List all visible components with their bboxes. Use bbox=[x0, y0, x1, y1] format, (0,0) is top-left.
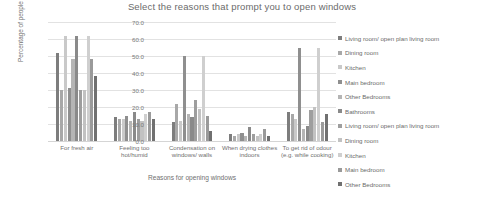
bar bbox=[298, 48, 301, 142]
bar bbox=[313, 107, 316, 141]
bar bbox=[90, 59, 93, 141]
bar bbox=[233, 136, 236, 141]
bar bbox=[259, 134, 262, 141]
legend-item[interactable]: Other Bedrooms bbox=[338, 89, 484, 104]
bar-group bbox=[278, 22, 336, 141]
legend-swatch-icon bbox=[338, 138, 342, 142]
y-axis-tick-label: 30.0 bbox=[104, 87, 144, 94]
bar bbox=[229, 134, 232, 141]
legend-swatch-icon bbox=[338, 168, 342, 172]
bar bbox=[175, 104, 178, 141]
bar bbox=[190, 117, 193, 141]
plot-area bbox=[48, 22, 336, 141]
bar bbox=[309, 110, 312, 141]
bar bbox=[267, 136, 270, 141]
legend-swatch-icon bbox=[338, 124, 342, 128]
legend-item[interactable]: Main bedroom bbox=[338, 162, 484, 177]
bar bbox=[75, 36, 78, 141]
bar bbox=[202, 56, 205, 141]
x-axis-tick-label: For fresh air bbox=[48, 144, 106, 159]
legend-label: Other Bedrooms bbox=[345, 181, 390, 188]
legend-swatch-icon bbox=[338, 51, 342, 55]
y-axis-title: Percentage of people bbox=[17, 0, 24, 84]
bar bbox=[244, 136, 247, 141]
y-axis-tick-label: 10.0 bbox=[104, 121, 144, 128]
x-axis-tick-label: When drying clothes indoors bbox=[221, 144, 279, 159]
y-axis-tick-label: 40.0 bbox=[104, 70, 144, 77]
legend-swatch-icon bbox=[338, 95, 342, 99]
y-axis-tick-label: 20.0 bbox=[104, 104, 144, 111]
bar bbox=[240, 133, 243, 142]
y-axis-tick-label: 50.0 bbox=[104, 53, 144, 60]
bar bbox=[206, 116, 209, 142]
bar bbox=[256, 136, 259, 141]
bar bbox=[60, 90, 63, 141]
legend-item[interactable]: Living room/ open plan living room bbox=[338, 31, 484, 46]
x-axis-tick-label: To get rid of odour (e.g. while cooking) bbox=[278, 144, 336, 159]
bar bbox=[94, 76, 97, 141]
y-axis-tick-label: 60.0 bbox=[104, 36, 144, 43]
bar bbox=[198, 109, 201, 141]
legend-item[interactable]: Kitchen bbox=[338, 60, 484, 75]
bar bbox=[321, 122, 324, 141]
bar bbox=[68, 88, 71, 141]
legend-item[interactable]: Dining room bbox=[338, 46, 484, 61]
legend-item[interactable]: Bathrooms bbox=[338, 104, 484, 119]
gridline bbox=[48, 141, 336, 142]
legend-label: Bathrooms bbox=[345, 108, 375, 115]
legend-label: Dining room bbox=[345, 137, 378, 144]
legend-label: Other Bedrooms bbox=[345, 93, 390, 100]
bar-group bbox=[221, 22, 279, 141]
legend-label: Dining room bbox=[345, 49, 378, 56]
legend-swatch-icon bbox=[338, 182, 342, 186]
bar bbox=[287, 112, 290, 141]
legend-label: Living room/ open plan living room bbox=[345, 35, 439, 42]
bar bbox=[294, 119, 297, 141]
bar bbox=[252, 134, 255, 141]
bar bbox=[306, 126, 309, 141]
bar bbox=[83, 90, 86, 141]
bar bbox=[56, 53, 59, 141]
bar bbox=[194, 100, 197, 141]
legend-item[interactable]: Other Bedrooms bbox=[338, 177, 484, 192]
legend-swatch-icon bbox=[338, 153, 342, 157]
bar bbox=[144, 114, 147, 141]
bar bbox=[291, 114, 294, 141]
bar bbox=[209, 131, 212, 141]
bar bbox=[248, 127, 251, 141]
legend-label: Main bedroom bbox=[345, 79, 385, 86]
bar bbox=[183, 56, 186, 141]
bar bbox=[237, 134, 240, 141]
bar bbox=[87, 36, 90, 141]
bar bbox=[187, 114, 190, 141]
y-axis-tick-label: 70.0 bbox=[104, 19, 144, 26]
bar bbox=[79, 90, 82, 141]
legend-label: Kitchen bbox=[345, 64, 366, 71]
legend-swatch-icon bbox=[338, 36, 342, 40]
legend-swatch-icon bbox=[338, 65, 342, 69]
bar bbox=[325, 114, 328, 141]
legend-label: Main bedroom bbox=[345, 166, 385, 173]
bar bbox=[172, 122, 175, 141]
bar bbox=[317, 48, 320, 142]
x-axis-tick-labels: For fresh airFeeling too hot/humidConden… bbox=[48, 144, 336, 159]
legend-item[interactable]: Dining room bbox=[338, 133, 484, 148]
chart-legend: Living room/ open plan living roomDining… bbox=[338, 31, 484, 192]
bar bbox=[263, 129, 266, 141]
legend-item[interactable]: Main bedroom bbox=[338, 75, 484, 90]
legend-label: Kitchen bbox=[345, 152, 366, 159]
bar-groups bbox=[48, 22, 336, 141]
bar-group bbox=[48, 22, 106, 141]
legend-item[interactable]: Living room/ open plan living room bbox=[338, 119, 484, 134]
bar bbox=[179, 121, 182, 141]
bar bbox=[71, 59, 74, 141]
legend-swatch-icon bbox=[338, 80, 342, 84]
x-axis-tick-label: Feeling too hot/humid bbox=[106, 144, 164, 159]
chart-title: Select the reasons that prompt you to op… bbox=[0, 1, 484, 12]
legend-item[interactable]: Kitchen bbox=[338, 148, 484, 163]
x-axis-tick-label: Condensation on windows/ walls bbox=[163, 144, 221, 159]
bar bbox=[148, 112, 151, 141]
bar-chart: Select the reasons that prompt you to op… bbox=[0, 0, 484, 200]
legend-swatch-icon bbox=[338, 109, 342, 113]
bar bbox=[152, 119, 155, 141]
